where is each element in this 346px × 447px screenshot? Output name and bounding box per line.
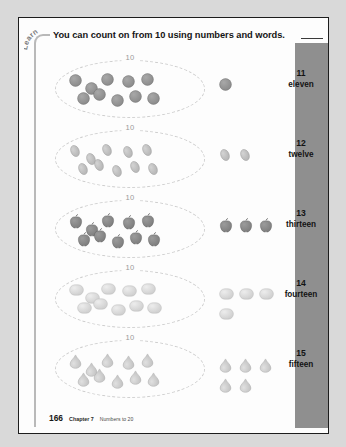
counter-token	[122, 145, 134, 159]
counter-token	[93, 228, 107, 243]
counter-token	[147, 232, 161, 247]
number-label: 13 thirteen	[275, 208, 327, 230]
counter-token	[219, 358, 232, 373]
worksheet-sheet: Learn You can count on from 10 using num…	[18, 17, 329, 434]
page-canvas: Learn You can count on from 10 using num…	[0, 0, 346, 447]
counter-token	[122, 285, 137, 297]
counter-token	[141, 353, 154, 368]
counter-token	[122, 215, 136, 230]
counter-token	[219, 308, 234, 320]
counter-token	[93, 298, 108, 310]
counter-token	[147, 372, 160, 387]
counter-token	[141, 213, 155, 228]
number-digits: 13	[275, 208, 327, 219]
counter-token	[219, 218, 233, 233]
counter-token	[93, 88, 106, 101]
number-digits: 14	[275, 278, 327, 289]
counter-token	[259, 358, 272, 373]
counter-token	[69, 284, 84, 296]
footer-chapter: Chapter 7	[69, 416, 94, 422]
counter-token	[111, 374, 124, 389]
counter-token	[129, 90, 142, 103]
counter-token	[239, 218, 253, 233]
counter-token	[77, 232, 91, 247]
counter-token	[69, 74, 82, 87]
ten-group: 10	[55, 130, 205, 188]
footer: 166 Chapter 7 Numbers to 20	[49, 413, 133, 427]
counter-token	[93, 368, 106, 383]
heading-row: You can count on from 10 using numbers a…	[49, 30, 320, 46]
count-on-row: 10	[19, 332, 328, 402]
counter-token	[111, 304, 126, 316]
number-word: eleven	[275, 79, 327, 90]
counter-token	[239, 378, 252, 393]
counter-token	[147, 162, 159, 176]
counter-token	[219, 148, 231, 162]
counter-token	[239, 358, 252, 373]
number-word: fifteen	[275, 359, 327, 370]
counter-token	[101, 143, 113, 157]
footer-topic: Numbers to 20	[100, 416, 133, 422]
counter-token	[147, 92, 160, 105]
number-word: thirteen	[275, 219, 327, 230]
counter-token	[101, 283, 116, 295]
counter-token	[259, 288, 274, 300]
counter-token	[111, 164, 123, 178]
count-on-row: 10	[19, 122, 328, 192]
counter-token	[219, 378, 232, 393]
group-tokens	[55, 340, 205, 398]
count-on-row: 10	[19, 262, 328, 332]
counter-token	[69, 354, 82, 369]
counter-token	[219, 288, 234, 300]
number-word: fourteen	[275, 289, 327, 300]
counter-token	[259, 218, 273, 233]
counter-token	[239, 148, 251, 162]
counter-token	[77, 372, 90, 387]
counter-token	[129, 300, 144, 312]
counter-token	[141, 143, 153, 157]
count-on-row: 10	[19, 192, 328, 262]
counter-token	[141, 73, 154, 86]
number-label: 11 eleven	[275, 68, 327, 90]
number-word: twelve	[275, 149, 327, 160]
learn-bracket-elbow	[34, 34, 50, 50]
heading-rule	[301, 38, 323, 39]
group-tokens	[55, 270, 205, 328]
ten-group: 10	[55, 200, 205, 258]
number-label: 14 fourteen	[275, 278, 327, 300]
number-digits: 11	[275, 68, 327, 79]
counter-token	[77, 92, 90, 105]
count-on-row: 10	[19, 52, 328, 122]
footer-page-number: 166	[49, 413, 63, 423]
counter-token	[239, 288, 254, 300]
page-title: You can count on from 10 using numbers a…	[53, 30, 285, 40]
counter-token	[122, 355, 135, 370]
counter-token	[101, 73, 114, 86]
counter-token	[147, 302, 162, 314]
counter-token	[111, 234, 125, 249]
counter-token	[122, 75, 135, 88]
counter-token	[129, 160, 141, 174]
ten-group: 10	[55, 270, 205, 328]
counter-token	[129, 230, 143, 245]
counter-token	[141, 283, 156, 295]
group-tokens	[55, 60, 205, 118]
counter-token	[69, 144, 81, 158]
counter-token	[111, 94, 124, 107]
counter-token	[101, 353, 114, 368]
counter-token	[77, 302, 92, 314]
number-label: 12 twelve	[275, 138, 327, 160]
counter-token	[129, 370, 142, 385]
number-digits: 12	[275, 138, 327, 149]
ten-group: 10	[55, 340, 205, 398]
group-tokens	[55, 200, 205, 258]
counter-token	[101, 213, 115, 228]
counter-token	[69, 214, 83, 229]
number-label: 15 fifteen	[275, 348, 327, 370]
counter-token	[77, 162, 89, 176]
counter-token	[219, 78, 232, 91]
ten-group: 10	[55, 60, 205, 118]
group-tokens	[55, 130, 205, 188]
counter-token	[93, 158, 105, 172]
number-digits: 15	[275, 348, 327, 359]
